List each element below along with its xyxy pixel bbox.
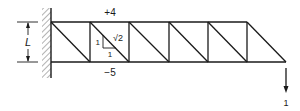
dimension-label: L — [25, 36, 31, 48]
arrowhead-up-icon — [26, 22, 30, 28]
arrow-down-icon — [284, 86, 289, 93]
diagonal-member — [247, 22, 286, 62]
top-chord-force-label: +4 — [104, 7, 116, 18]
slope-horizontal-label: 1 — [108, 50, 113, 59]
diagonal-member — [208, 22, 247, 62]
slope-vertical-label: 1 — [96, 38, 101, 47]
slope-hypotenuse-label: √2 — [113, 33, 123, 43]
diagonal-member — [169, 22, 208, 62]
bottom-chord-force-label: −5 — [104, 67, 116, 78]
truss-diagram: L 1 1 √2 +4 −5 — [0, 0, 300, 111]
dimension-L: L — [17, 22, 38, 62]
load-arrow: 1 — [283, 68, 288, 108]
truss-members — [51, 22, 286, 62]
arrowhead-down-icon — [26, 56, 30, 62]
diagonal-member — [51, 22, 90, 62]
diagonal-member — [129, 22, 169, 62]
truss-svg: L 1 1 √2 +4 −5 — [0, 0, 300, 111]
wall-hatching — [42, 8, 51, 78]
slope-triangle: 1 1 √2 — [96, 33, 123, 59]
load-label: 1 — [283, 98, 288, 108]
fixed-wall-support — [42, 8, 51, 78]
